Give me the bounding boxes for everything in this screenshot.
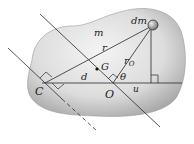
label-dm: dm bbox=[131, 15, 147, 26]
label-o: O bbox=[105, 88, 114, 101]
label-c: C bbox=[35, 85, 44, 98]
label-d: d bbox=[81, 71, 87, 82]
label-m: m bbox=[94, 27, 103, 38]
label-theta: θ bbox=[120, 71, 126, 82]
label-g: G bbox=[101, 61, 109, 72]
center-of-mass-dot bbox=[95, 67, 98, 70]
label-u: u bbox=[133, 84, 139, 94]
mass-element-dm bbox=[148, 20, 158, 30]
moment-of-inertia-diagram: dm m r G rO θ d u C O bbox=[0, 0, 194, 144]
